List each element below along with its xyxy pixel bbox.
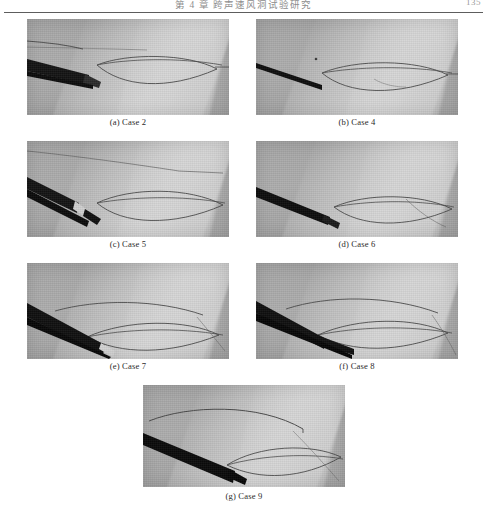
panel-caption-case-5: (c) Case 5 [27,239,229,249]
figure-panel-case-8: (f) Case 8 [256,263,458,359]
schlieren-features [256,141,458,237]
figure-grid: (a) Case 2 (b) Case 4 [0,15,487,524]
schlieren-image-case-9 [143,385,345,487]
figure-panel-case-2: (a) Case 2 [27,19,229,115]
page-number: 135 [466,0,481,7]
schlieren-image-case-4 [256,19,458,115]
figure-panel-case-6: (d) Case 6 [256,141,458,237]
schlieren-image-case-5 [27,141,229,237]
schlieren-features [256,19,458,115]
schlieren-features [143,385,345,487]
schlieren-image-case-6 [256,141,458,237]
panel-caption-case-6: (d) Case 6 [256,239,458,249]
figure-row-3: (e) Case 7 (f) Case 8 [0,263,487,385]
schlieren-features [27,263,229,359]
schlieren-features [27,19,229,115]
schlieren-features [256,263,458,359]
figure-row-4: (g) Case 9 [0,385,487,515]
panel-caption-case-8: (f) Case 8 [256,361,458,371]
panel-caption-case-7: (e) Case 7 [27,361,229,371]
figure-panel-case-4: (b) Case 4 [256,19,458,115]
schlieren-features [27,141,229,237]
panel-caption-case-4: (b) Case 4 [256,117,458,127]
schlieren-image-case-2 [27,19,229,115]
figure-panel-case-7: (e) Case 7 [27,263,229,359]
figure-row-2: (c) Case 5 (d) Case 6 [0,141,487,263]
panel-caption-case-2: (a) Case 2 [27,117,229,127]
figure-row-1: (a) Case 2 (b) Case 4 [0,19,487,141]
schlieren-image-case-7 [27,263,229,359]
figure-panel-case-9: (g) Case 9 [143,385,345,487]
header-rule [4,12,483,13]
panel-caption-case-9: (g) Case 9 [143,491,345,501]
running-head-title: 第 4 章 跨声速风洞试验研究 [0,0,487,11]
schlieren-image-case-8 [256,263,458,359]
page-header: 第 4 章 跨声速风洞试验研究 135 [0,0,487,15]
figure-panel-case-5: (c) Case 5 [27,141,229,237]
